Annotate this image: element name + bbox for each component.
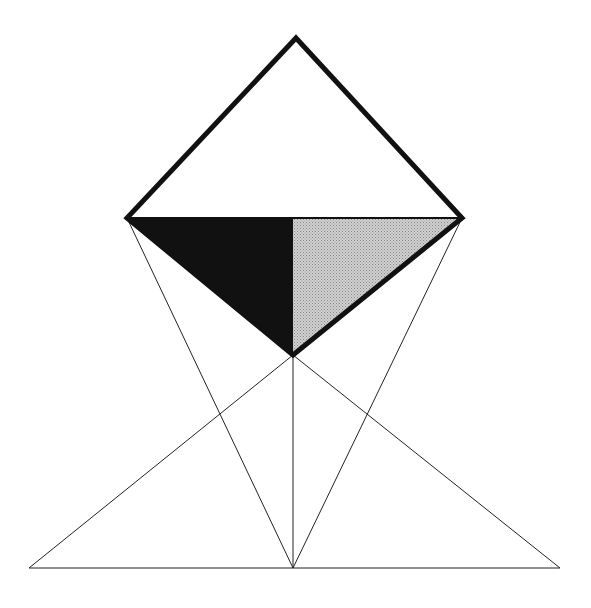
geometric-diagram <box>0 0 591 608</box>
